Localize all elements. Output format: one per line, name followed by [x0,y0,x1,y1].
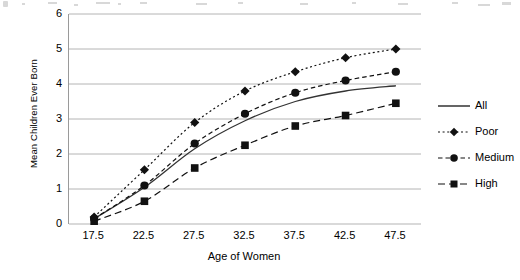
data-point-square [241,141,249,149]
y-tick-label: 3 [36,113,62,124]
plot-area [68,14,420,224]
y-tick-label: 2 [36,148,62,159]
series-layer [90,44,401,225]
legend-swatch-high [437,177,471,191]
legend-label: Poor [475,124,498,138]
data-point-diamond [240,86,249,95]
y-tick-label: 4 [36,78,62,89]
chart-figure: Mean Children Ever Born 6 5 4 3 2 1 0 17… [0,0,520,280]
data-point-circle [140,181,148,189]
data-point-square [141,197,149,205]
data-point-square [90,217,98,225]
x-axis-title: Age of Women [68,250,420,262]
data-point-square [342,112,350,120]
x-tick-label: 27.5 [174,229,214,241]
series-all [94,86,396,219]
data-point-circle [191,139,199,147]
x-tick-label: 22.5 [123,229,163,241]
data-point-diamond [291,67,300,76]
legend-label: All [475,98,487,112]
gridlines [69,14,421,224]
series-poor [90,44,401,221]
legend-marker-square [451,181,458,188]
y-tick-label: 1 [36,183,62,194]
data-point-circle [291,89,299,97]
x-tick-label: 32.5 [224,229,264,241]
series-line [94,86,396,219]
legend-marker-circle [450,154,458,162]
legend-swatch-all [437,99,471,113]
x-tick-label: 17.5 [73,229,113,241]
y-axis-tick-labels: 6 5 4 3 2 1 0 [36,0,62,280]
legend-marker-diamond [450,128,458,136]
data-point-diamond [341,53,350,62]
legend-label: High [475,176,498,190]
data-point-circle [341,76,349,84]
plot-svg [69,14,421,224]
chart-legend: AllPoorMediumHigh [437,96,517,200]
legend-item-medium[interactable]: Medium [437,148,517,174]
legend-swatch-poor [437,125,471,139]
data-point-square [191,164,199,172]
data-point-circle [392,68,400,76]
x-tick-label: 47.5 [375,229,415,241]
series-high [90,99,399,225]
y-tick-label: 5 [36,43,62,54]
data-point-circle [241,110,249,118]
x-tick-label: 37.5 [274,229,314,241]
x-tick-label: 42.5 [325,229,365,241]
data-point-square [392,99,400,107]
legend-item-all[interactable]: All [437,96,517,122]
y-tick-label: 0 [36,218,62,229]
data-point-diamond [391,44,400,53]
series-line [94,49,396,217]
data-point-square [291,122,299,130]
legend-item-poor[interactable]: Poor [437,122,517,148]
legend-label: Medium [475,150,514,164]
legend-swatch-medium [437,151,471,165]
legend-item-high[interactable]: High [437,174,517,200]
y-tick-label: 6 [36,8,62,19]
scan-artifact-speckles [0,0,520,14]
x-axis-tick-labels: 17.522.527.532.537.542.547.5 [68,229,420,245]
